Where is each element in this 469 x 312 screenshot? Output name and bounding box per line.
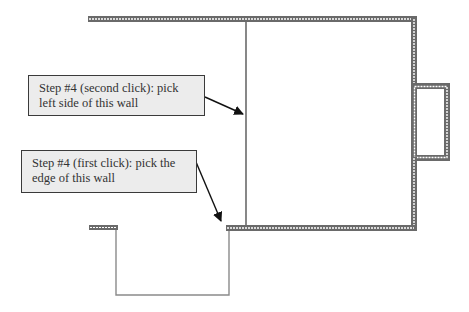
- bay-window-wall[interactable]: [411, 83, 450, 161]
- callout-second-click: Step #4 (second click): pick left side o…: [28, 75, 205, 116]
- callout-first-click: Step #4 (first click): pick the edge of …: [21, 150, 197, 193]
- arrow-second-click: [205, 97, 243, 114]
- top-wall[interactable]: [88, 16, 417, 22]
- callout-first-click-line1: Step #4 (first click): pick the: [32, 156, 188, 171]
- lower-room-outline[interactable]: [116, 230, 229, 295]
- left-wall-stub[interactable]: [89, 225, 118, 230]
- callout-second-click-line2: left side of this wall: [39, 96, 196, 111]
- right-wall-upper[interactable]: [411, 16, 417, 86]
- callout-first-click-line2: edge of this wall: [32, 171, 188, 186]
- arrow-first-click: [196, 162, 221, 221]
- bottom-wall[interactable]: [226, 225, 417, 231]
- callout-second-click-line1: Step #4 (second click): pick: [39, 81, 196, 96]
- right-wall-lower[interactable]: [411, 157, 417, 231]
